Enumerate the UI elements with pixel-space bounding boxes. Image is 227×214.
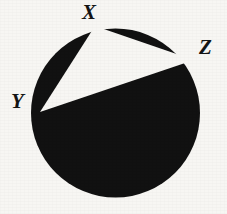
vertex-label-y: Y: [11, 91, 24, 112]
vertex-label-z: Z: [199, 37, 212, 58]
vertex-label-x: X: [82, 2, 96, 23]
geometry-figure: X Z Y: [0, 0, 227, 214]
circle-with-inscribed-triangle: [0, 0, 227, 214]
